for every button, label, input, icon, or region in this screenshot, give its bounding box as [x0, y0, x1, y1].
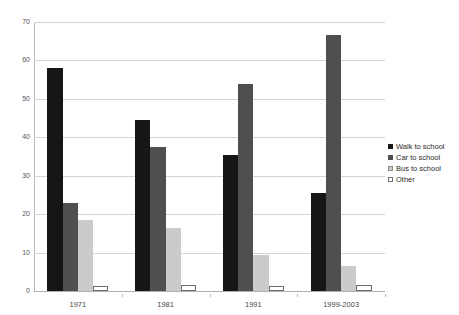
- legend-item-label: Other: [396, 176, 415, 184]
- y-axis-tick-label: 0: [4, 287, 30, 294]
- x-axis-tick-label: 1999-2003: [301, 301, 381, 309]
- bar: [78, 220, 93, 291]
- bar: [238, 84, 253, 292]
- y-axis-tick-labels: 010203040506070: [0, 22, 30, 291]
- bar: [311, 193, 326, 291]
- legend-item: Other: [388, 174, 458, 185]
- legend-swatch-icon: [388, 144, 393, 149]
- legend-item-label: Bus to school: [396, 165, 441, 173]
- legend-item: Walk to school: [388, 141, 458, 152]
- bar: [93, 286, 108, 291]
- x-axis-tick-mark: [122, 294, 123, 297]
- chart-legend: Walk to schoolCar to schoolBus to school…: [388, 141, 458, 185]
- legend-item: Car to school: [388, 152, 458, 163]
- bar: [341, 266, 356, 291]
- x-axis-tick-mark: [297, 294, 298, 297]
- bar: [269, 286, 284, 291]
- bar-group: [47, 22, 108, 291]
- bar: [150, 147, 165, 291]
- y-axis-tick-label: 20: [4, 210, 30, 217]
- bar: [135, 120, 150, 291]
- bar: [63, 203, 78, 291]
- bar-group: [311, 22, 372, 291]
- bar: [253, 255, 268, 292]
- bar: [326, 35, 341, 291]
- x-axis-tick-mark: [385, 294, 386, 297]
- y-axis-tick-label: 30: [4, 172, 30, 179]
- legend-swatch-icon: [388, 166, 393, 171]
- legend-item-label: Car to school: [396, 154, 440, 162]
- bar: [47, 68, 62, 291]
- bar: [166, 228, 181, 291]
- x-axis-tick-label: 1981: [126, 301, 206, 309]
- bar-group: [223, 22, 284, 291]
- x-axis-tick-mark: [210, 294, 211, 297]
- y-axis-tick-label: 60: [4, 56, 30, 63]
- bar: [181, 285, 196, 291]
- legend-swatch-icon: [388, 155, 393, 160]
- y-axis-tick-label: 50: [4, 95, 30, 102]
- legend-item-label: Walk to school: [396, 143, 445, 151]
- x-axis-tick-label: 1971: [38, 301, 118, 309]
- y-axis-tick-label: 10: [4, 249, 30, 256]
- legend-item: Bus to school: [388, 163, 458, 174]
- y-axis-tick-label: 40: [4, 133, 30, 140]
- x-axis-tick-labels: 1971198119911999-2003: [34, 294, 385, 312]
- bar-group: [135, 22, 196, 291]
- x-axis-tick-label: 1991: [213, 301, 293, 309]
- bar: [223, 155, 238, 291]
- bar-chart: 010203040506070 1971198119911999-2003 Wa…: [0, 0, 459, 315]
- plot-area: [34, 22, 385, 291]
- gridline: [34, 291, 385, 292]
- legend-swatch-icon: [388, 177, 393, 182]
- y-axis-tick-label: 70: [4, 18, 30, 25]
- bar: [356, 285, 371, 291]
